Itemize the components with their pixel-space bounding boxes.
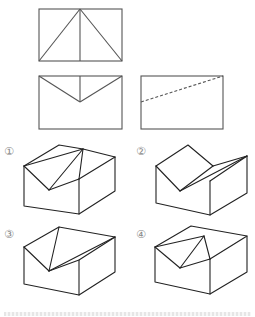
option-3-figure[interactable]: ③ [4, 227, 115, 295]
figure-canvas: ① ② ③ ④ [0, 0, 255, 317]
option-1-figure[interactable]: ① [4, 145, 115, 214]
front-view [39, 76, 122, 129]
option-4-label: ④ [136, 228, 146, 241]
option-1-label: ① [4, 145, 14, 158]
option-2-figure[interactable]: ② [136, 145, 247, 215]
side-view [141, 76, 223, 129]
option-4-figure[interactable]: ④ [136, 226, 247, 294]
option-2-label: ② [136, 145, 146, 158]
option-3-label: ③ [4, 228, 14, 241]
bottom-divider [4, 312, 251, 316]
top-view [39, 9, 122, 61]
